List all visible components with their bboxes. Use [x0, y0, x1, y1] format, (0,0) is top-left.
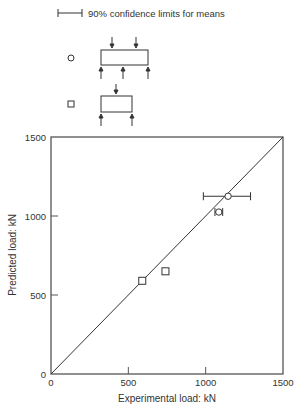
y-tick-label: 0: [41, 369, 46, 380]
legend-errorbar: 90% confidence limits for means: [58, 8, 225, 19]
reference-line: [51, 137, 283, 374]
load-arrows-icon: [110, 37, 138, 48]
load-arrows-icon: [114, 84, 118, 94]
y-tick-label: 1000: [25, 211, 46, 222]
support-arrows-icon: [99, 114, 134, 126]
x-axis-label: Experimental load: kN: [118, 393, 216, 404]
x-tick-label: 1500: [272, 377, 293, 388]
legend-square-series: [68, 84, 134, 126]
circle-data-point: [225, 193, 231, 199]
x-tick-label: 0: [48, 377, 53, 388]
plot-area: 050010001500050010001500: [25, 132, 294, 389]
data-points: [139, 192, 251, 284]
x-tick-label: 1000: [195, 377, 216, 388]
chart-figure: 90% confidence limits for means: [0, 0, 302, 415]
y-axis-label: Predicted load: kN: [7, 214, 18, 296]
y-tick-label: 500: [30, 290, 46, 301]
square-marker-icon: [68, 101, 74, 107]
legend-circle-series: [68, 37, 150, 79]
beam-icon: [101, 50, 148, 65]
beam-icon: [101, 96, 132, 112]
support-arrows-icon: [99, 67, 150, 79]
square-data-point: [139, 277, 146, 284]
axis-tick-labels: 050010001500050010001500: [25, 132, 294, 389]
x-tick-label: 500: [120, 377, 136, 388]
circle-data-point: [216, 209, 222, 215]
square-data-point: [162, 268, 169, 275]
y-tick-label: 1500: [25, 132, 46, 143]
circle-marker-icon: [68, 55, 74, 61]
legend-errorbar-label: 90% confidence limits for means: [88, 8, 225, 19]
